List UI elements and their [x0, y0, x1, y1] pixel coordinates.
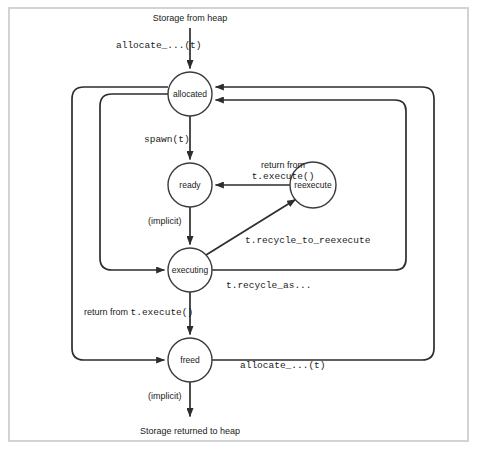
- edge-label-executing-to-reexecute: t.recycle_to_reexecute: [245, 235, 371, 246]
- edge-label-ready-to-executing: (implicit): [148, 216, 182, 226]
- edge-label-freed-to-allocated: allocate_...(t): [240, 360, 326, 371]
- figure-root: allocated ready reexecute executing free…: [0, 0, 478, 451]
- node-executing[interactable]: executing: [168, 248, 212, 292]
- state-diagram-canvas: allocated ready reexecute executing free…: [0, 0, 478, 451]
- edge-allocated-to-executing-left: [100, 94, 168, 270]
- terminal-sink-label: Storage returned to heap: [140, 426, 240, 436]
- node-freed-label: freed: [180, 355, 200, 365]
- edge-label-executing-to-freed: return from t.execute(): [84, 307, 193, 318]
- node-ready-label: ready: [179, 180, 201, 190]
- edge-label-reexecute-to-ready-line2: t.execute(): [252, 171, 315, 182]
- edge-label-executing-to-allocated: t.recycle_as...: [226, 280, 312, 291]
- edge-label-heap-to-allocated: allocate_...(t): [116, 40, 202, 51]
- edge-label-executing-to-freed-mono: t.execute(): [131, 307, 194, 318]
- edge-freed-to-allocated: [212, 87, 434, 360]
- node-allocated[interactable]: allocated: [168, 72, 212, 116]
- edge-label-allocated-to-ready: spawn(t): [144, 134, 190, 145]
- node-freed[interactable]: freed: [168, 338, 212, 382]
- node-allocated-label: allocated: [173, 89, 207, 99]
- terminal-source-label: Storage from heap: [153, 13, 228, 23]
- node-ready[interactable]: ready: [168, 163, 212, 207]
- node-executing-label: executing: [172, 265, 209, 275]
- edge-label-reexecute-to-ready-line1: return from: [261, 160, 305, 170]
- edge-label-freed-to-heap: (implicit): [148, 391, 182, 401]
- edge-executing-to-reexecute: [206, 200, 296, 256]
- edge-label-executing-to-freed-prefix: return from: [84, 307, 131, 317]
